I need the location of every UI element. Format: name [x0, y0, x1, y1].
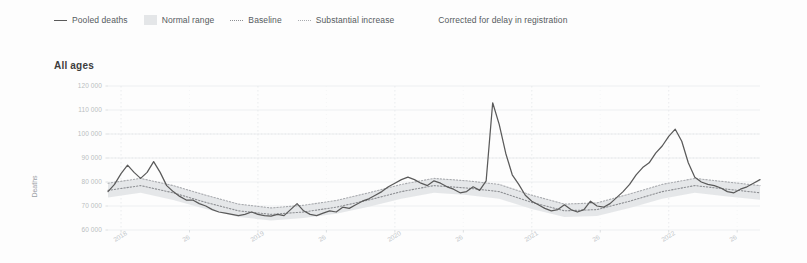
- legend-item-substantial-increase[interactable]: Substantial increase: [298, 16, 395, 25]
- dotted-line-swatch-icon: [230, 20, 243, 21]
- y-axis-title: Deaths: [31, 157, 38, 217]
- panel-title: All ages: [54, 60, 94, 71]
- no-swatch-icon: [420, 15, 433, 25]
- legend-item-normal-range[interactable]: Normal range: [144, 15, 215, 25]
- shaded-band-swatch-icon: [144, 15, 157, 25]
- excess-deaths-chart-figure: Pooled deaths Normal range Baseline Subs…: [0, 0, 807, 263]
- legend-label-substantial-increase: Substantial increase: [316, 16, 395, 25]
- legend-item-corrected-for-delay[interactable]: Corrected for delay in registration: [420, 15, 567, 25]
- y-axis-tick-label: 100 000: [78, 130, 102, 137]
- legend-label-normal-range: Normal range: [162, 16, 215, 25]
- y-axis-tick-label: 90 000: [82, 154, 102, 161]
- legend-item-baseline[interactable]: Baseline: [230, 16, 281, 25]
- y-axis-tick-label: 70 000: [82, 202, 102, 209]
- y-axis-tick-label: 80 000: [82, 178, 102, 185]
- dotted-line-swatch-icon: [298, 20, 311, 21]
- legend-label-corrected-for-delay: Corrected for delay in registration: [438, 16, 567, 25]
- chart-plot-container: Deaths 60 00070 00080 00090 000100 00011…: [0, 78, 807, 263]
- legend-label-pooled-deaths: Pooled deaths: [72, 16, 128, 25]
- legend-item-pooled-deaths[interactable]: Pooled deaths: [54, 16, 128, 25]
- chart-legend: Pooled deaths Normal range Baseline Subs…: [54, 12, 583, 28]
- solid-line-swatch-icon: [54, 20, 67, 21]
- legend-label-baseline: Baseline: [248, 16, 281, 25]
- y-axis-tick-label: 110 000: [78, 106, 102, 113]
- y-axis-tick-label: 60 000: [82, 226, 102, 233]
- y-axis-tick-label: 120 000: [78, 82, 102, 89]
